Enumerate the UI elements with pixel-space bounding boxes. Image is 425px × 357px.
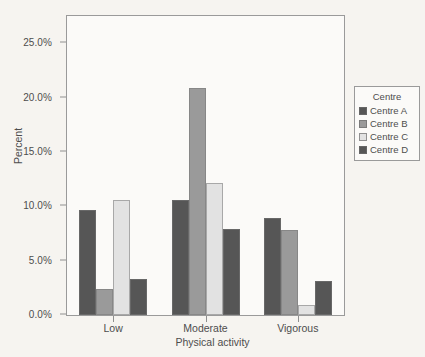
bar[interactable] (281, 230, 298, 315)
legend-label: Centre B (370, 118, 408, 129)
x-axis-title: Physical activity (0, 336, 425, 348)
legend-swatch-icon (359, 133, 367, 141)
legend-label: Centre C (370, 131, 408, 142)
x-axis-tick-label: Vigorous (277, 322, 318, 334)
legend-swatch-icon (359, 107, 367, 115)
legend-label: Centre D (370, 144, 408, 155)
legend-entry[interactable]: Centre D (359, 144, 415, 155)
legend: Centre Centre ACentre BCentre CCentre D (354, 86, 420, 161)
bar[interactable] (96, 289, 113, 315)
legend-entry[interactable]: Centre B (359, 118, 415, 129)
legend-title: Centre (359, 91, 415, 102)
x-axis-tick-label: Low (104, 322, 123, 334)
y-axis-tick-label: 10.0% (23, 200, 52, 211)
bar[interactable] (113, 200, 130, 315)
y-axis-tick-label: 20.0% (23, 91, 52, 102)
y-axis-tick-label: 0.0% (29, 309, 52, 320)
bars-layer (67, 16, 344, 315)
bar[interactable] (206, 183, 223, 315)
bar[interactable] (130, 279, 147, 315)
bar[interactable] (264, 218, 281, 315)
bar[interactable] (79, 210, 96, 315)
legend-entries: Centre ACentre BCentre CCentre D (359, 105, 415, 155)
bar[interactable] (223, 229, 240, 315)
y-axis-tick-label: 25.0% (23, 37, 52, 48)
y-axis-tick-label: 15.0% (23, 145, 52, 156)
bar-group (172, 16, 240, 315)
bar-group (264, 16, 332, 315)
bar[interactable] (172, 200, 189, 315)
bar[interactable] (315, 281, 332, 315)
legend-entry[interactable]: Centre A (359, 105, 415, 116)
bar[interactable] (298, 305, 315, 315)
legend-swatch-icon (359, 120, 367, 128)
bar-group (79, 16, 147, 315)
chart-page: Percent 0.0%5.0%10.0%15.0%20.0%25.0% Phy… (0, 0, 425, 357)
legend-label: Centre A (370, 105, 407, 116)
legend-entry[interactable]: Centre C (359, 131, 415, 142)
bar[interactable] (189, 88, 206, 315)
y-axis-tick-labels: 0.0%5.0%10.0%15.0%20.0%25.0% (0, 15, 60, 316)
legend-swatch-icon (359, 146, 367, 154)
x-axis-tick-label: Moderate (183, 322, 227, 334)
y-axis-tick-label: 5.0% (29, 254, 52, 265)
